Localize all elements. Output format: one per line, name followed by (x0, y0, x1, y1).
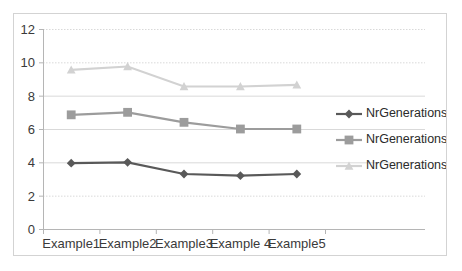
y-axis-label-10: 10 (21, 55, 35, 70)
data-point-s1-4 (292, 170, 301, 179)
data-point-s2-4 (292, 125, 301, 134)
data-point-s2-lg (345, 136, 354, 145)
y-axis-labels-group: 024681012 (21, 22, 35, 237)
data-point-s1-0 (67, 159, 76, 168)
data-point-s2-3 (236, 125, 245, 134)
y-axis-label-8: 8 (28, 89, 35, 104)
y-axis-label-4: 4 (28, 155, 35, 170)
y-axis-label-6: 6 (28, 122, 35, 137)
line-chart: 024681012 Example1Example2Example3Exampl… (14, 14, 446, 255)
y-axis-label-0: 0 (28, 222, 35, 237)
y-axis-label-2: 2 (28, 189, 35, 204)
x-axis-label-2: Example3 (155, 236, 213, 251)
gridlines-group (43, 30, 425, 230)
data-point-s1-2 (180, 170, 189, 179)
series-1 (67, 158, 301, 180)
legend-label-3: NrGenerations3 (366, 158, 446, 172)
x-axis-label-1: Example2 (99, 236, 157, 251)
data-point-s1-1 (123, 158, 132, 167)
legend-label-1: NrGenerations1 (366, 106, 446, 120)
legend-item-2: NrGenerations2 (336, 132, 446, 146)
legend-item-3: NrGenerations3 (336, 158, 446, 172)
x-axis-label-3: Example 4 (210, 236, 271, 251)
y-axis-ticks-group (39, 30, 43, 230)
data-point-s2-0 (67, 110, 76, 119)
data-point-s1-lg (345, 110, 354, 119)
chart-container: 024681012 Example1Example2Example3Exampl… (13, 13, 447, 256)
legend-item-1: NrGenerations1 (336, 106, 446, 120)
data-point-s1-3 (236, 171, 245, 180)
x-axis-label-4: Example5 (268, 236, 326, 251)
data-point-s2-1 (123, 108, 132, 117)
y-axis-label-12: 12 (21, 22, 35, 37)
data-point-s2-2 (180, 118, 189, 127)
series-3 (67, 62, 301, 90)
x-axis-labels-group: Example1Example2Example3Example 4Example… (42, 236, 325, 251)
x-axis-label-0: Example1 (42, 236, 100, 251)
legend-label-2: NrGenerations2 (366, 132, 446, 146)
